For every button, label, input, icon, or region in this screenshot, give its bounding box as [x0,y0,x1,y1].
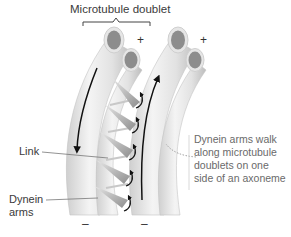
dynein-label-line1: Dynein [9,193,43,206]
plus-right: + [200,34,207,46]
microtubule-diagram [0,0,291,237]
annotation-line-1: Dynein arms walk [194,133,277,146]
annotation-line-4: side of an axoneme [194,172,286,185]
doublet-bracket [83,18,150,26]
link-label: Link [19,145,39,158]
annotation-line-2: along microtubule [194,146,277,159]
minus-right: – [141,218,148,230]
diagram-title: Microtubule doublet [70,3,170,16]
dynein-label-line2: arms [9,206,33,219]
annotation-line-3: doublets on one [194,159,269,172]
plus-left: + [137,34,144,46]
minus-left: – [82,218,89,230]
